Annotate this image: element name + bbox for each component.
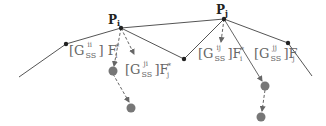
point-label-pj: Pj (216, 4, 228, 17)
label-gss-ij-fi: [GijSS]F*i (198, 47, 242, 63)
node (182, 57, 186, 61)
label-gss-jj-fj: [GjjSS]Fj (254, 47, 295, 63)
label-gss-ji-fj: [GjiSS]F*j (125, 63, 169, 79)
point-label-pi: Pi (108, 14, 120, 27)
node (64, 42, 68, 46)
node (286, 41, 290, 45)
label-gss-ii-fi: [GiiSS] F*i (69, 44, 117, 60)
diagram-canvas: Pi Pj [GiiSS] F*i [GjiSS]F*j [GijSS]F*i … (0, 0, 326, 126)
